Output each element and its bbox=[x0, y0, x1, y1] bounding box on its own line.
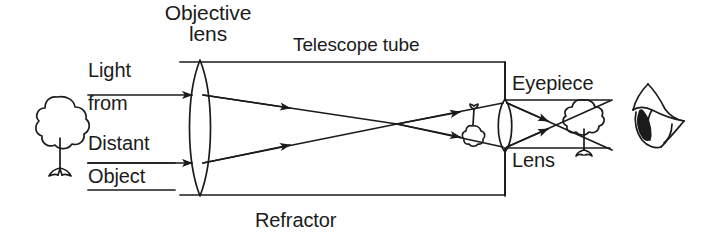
refracted-ray-upper bbox=[203, 95, 397, 124]
label-distant: Distant bbox=[88, 133, 150, 153]
ray-focus-to-eyepiece-upper bbox=[397, 103, 503, 124]
label-light: Light bbox=[88, 60, 131, 80]
label-eyepiece: Eyepiece bbox=[512, 73, 593, 93]
objective-line-1: Objective bbox=[165, 1, 252, 24]
eyepiece-lens bbox=[498, 99, 512, 152]
label-from: from bbox=[88, 93, 128, 113]
label-telescope-tube: Telescope tube bbox=[293, 35, 419, 54]
label-object: Object bbox=[88, 166, 145, 186]
objective-line-2: lens bbox=[148, 23, 268, 44]
telescope-tube bbox=[180, 62, 505, 195]
eye-icon bbox=[633, 84, 684, 148]
refracted-ray-lower bbox=[203, 124, 397, 163]
source-tree-icon bbox=[36, 97, 89, 176]
objective-lens bbox=[190, 60, 211, 196]
telescope-diagram: Objective lens Telescope tube Light from… bbox=[0, 0, 716, 249]
label-lens: Lens bbox=[512, 150, 555, 170]
ray-focus-to-eyepiece-lower bbox=[397, 124, 503, 147]
figure-caption-refractor: Refractor bbox=[255, 210, 336, 230]
label-objective-lens: Objective lens bbox=[148, 2, 268, 45]
ray-after-eyepiece-upper bbox=[507, 103, 612, 150]
